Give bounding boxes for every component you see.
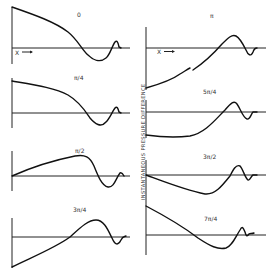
panel-phase-pi: π X bbox=[146, 12, 266, 70]
x-axis-label: X bbox=[15, 49, 19, 56]
waveform-curve bbox=[146, 102, 257, 137]
panel-phase-3pi-over-4: 3π/4 bbox=[12, 206, 130, 268]
waveform-curve bbox=[146, 166, 257, 194]
phase-label: 3π/4 bbox=[73, 206, 86, 213]
panel-phase-3pi-over-2: 3π/2 bbox=[146, 153, 266, 205]
panel-phase-pi-over-2: π/2 bbox=[12, 147, 130, 191]
phase-label: 0 bbox=[77, 11, 81, 18]
phase-label: 5π/4 bbox=[203, 88, 216, 95]
phase-label: π/2 bbox=[75, 147, 85, 154]
phase-label: 3π/2 bbox=[203, 153, 216, 160]
waveform-curve bbox=[12, 155, 124, 187]
waveform-curve bbox=[12, 220, 126, 267]
figure-canvas: 0 X π/4 π/2 3π/4 π X bbox=[0, 0, 274, 275]
y-axis-label: INSTANTANEOUS PRESSURE DIFFERENCE bbox=[140, 84, 146, 200]
waveform-curve bbox=[12, 7, 121, 61]
panel-phase-7pi-over-4: 7π/4 bbox=[146, 205, 266, 255]
waveform-curve bbox=[12, 81, 121, 125]
waveform-curve bbox=[193, 35, 257, 70]
panel-phase-pi-over-4: π/4 bbox=[12, 74, 130, 128]
panel-phase-5pi-over-4: 5π/4 bbox=[146, 88, 266, 138]
phase-label: π/4 bbox=[74, 74, 84, 81]
waveform-curve-pi-continuation bbox=[146, 68, 190, 88]
arrow-head-icon bbox=[172, 50, 175, 53]
phase-label: π bbox=[210, 12, 214, 19]
x-axis-label: X bbox=[157, 48, 161, 55]
panel-phase-0: 0 X bbox=[12, 7, 130, 64]
waveform-curve bbox=[146, 206, 254, 249]
arrow-head-icon bbox=[30, 51, 33, 54]
phase-label: 7π/4 bbox=[204, 215, 217, 222]
